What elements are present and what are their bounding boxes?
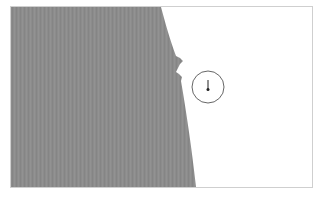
pin-dot-icon	[207, 88, 210, 91]
map-canvas[interactable]	[0, 0, 320, 199]
land-mass	[11, 7, 196, 187]
location-marker[interactable]	[192, 71, 224, 103]
